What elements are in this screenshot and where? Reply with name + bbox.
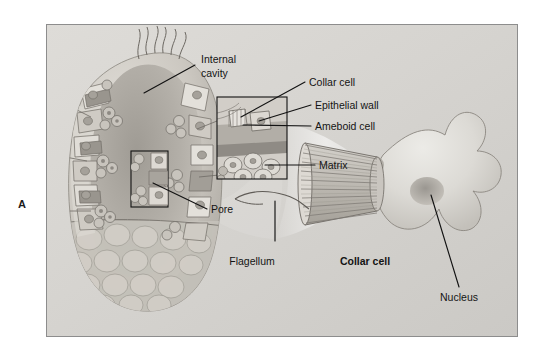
inset-magnification-box: [217, 97, 287, 185]
label-flagellum: Flagellum: [229, 255, 275, 267]
label-collar-cell-main: Collar cell: [340, 255, 390, 267]
label-pore: Pore: [211, 203, 233, 215]
label-epithelial-wall: Epithelial wall: [315, 99, 379, 111]
inset-collar-cell: [229, 109, 247, 127]
label-internal-cavity-line2: cavity: [201, 67, 229, 79]
panel-label-a: A: [18, 198, 26, 210]
label-matrix: Matrix: [319, 159, 348, 171]
label-nucleus: Nucleus: [440, 291, 478, 303]
collar-cell-nucleus: [410, 177, 444, 205]
label-ameboid-cell: Ameboid cell: [315, 120, 375, 132]
figure-frame: Internal cavity Collar cell Epithelial w…: [46, 24, 518, 337]
sponge-diagram-svg: Internal cavity Collar cell Epithelial w…: [47, 25, 517, 336]
label-internal-cavity-line1: Internal: [201, 53, 236, 65]
label-collar-cell-inset: Collar cell: [309, 76, 355, 88]
figure-page: A: [0, 0, 541, 362]
